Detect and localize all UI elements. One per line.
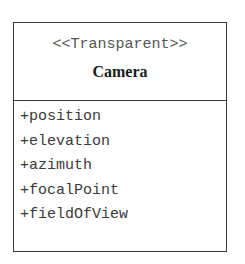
attributes-compartment: +position +elevation +azimuth +focalPoin… <box>14 101 226 228</box>
attribute-field-of-view: +fieldOfView <box>20 203 226 228</box>
uml-class-box: <<Transparent>> Camera +position +elevat… <box>13 22 227 252</box>
attribute-elevation: +elevation <box>20 130 226 155</box>
attribute-azimuth: +azimuth <box>20 154 226 179</box>
class-header-compartment: <<Transparent>> Camera <box>14 23 226 101</box>
class-stereotype: <<Transparent>> <box>14 23 226 55</box>
attribute-position: +position <box>20 105 226 130</box>
attribute-focal-point: +focalPoint <box>20 179 226 204</box>
class-name: Camera <box>14 62 226 82</box>
